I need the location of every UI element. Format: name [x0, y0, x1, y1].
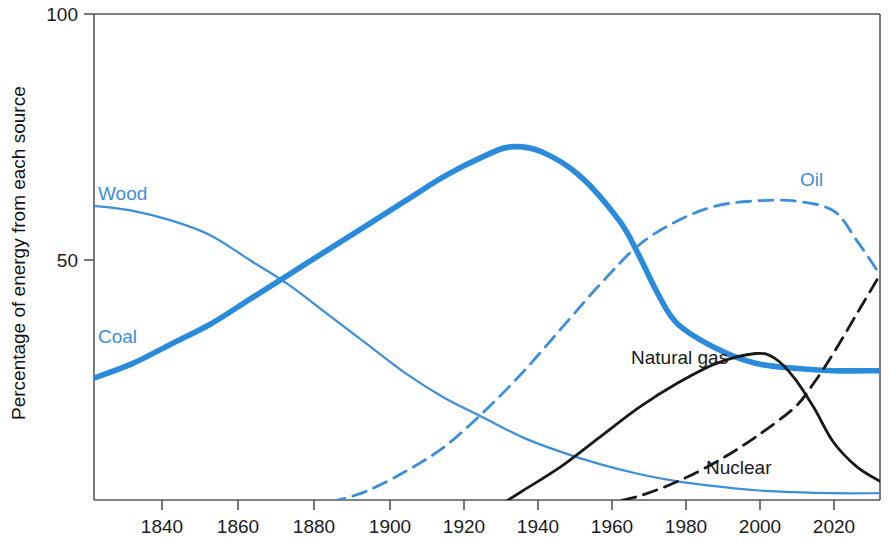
series-label-oil: Oil: [800, 169, 823, 190]
series-line-coal: [94, 147, 880, 379]
x-tick-label-1880: 1880: [293, 516, 335, 537]
series-label-natural-gas: Natural gas: [631, 347, 728, 368]
x-tick-label-1860: 1860: [217, 516, 259, 537]
series-line-wood: [94, 206, 880, 493]
series-label-coal: Coal: [98, 326, 137, 347]
x-tick-label-1840: 1840: [141, 516, 183, 537]
x-tick-label-1940: 1940: [517, 516, 559, 537]
series-label-nuclear: Nuclear: [706, 457, 772, 478]
series-line-natural-gas: [503, 353, 880, 503]
series-line-oil: [331, 200, 880, 502]
x-tick-label-1920: 1920: [443, 516, 485, 537]
y-tick-label-100: 100: [46, 4, 78, 25]
energy-sources-line-chart: 100 50 Percentage of energy from each so…: [0, 0, 888, 547]
y-axis-label: Percentage of energy from each source: [8, 86, 29, 420]
x-tick-label-1900: 1900: [369, 516, 411, 537]
y-tick-label-50: 50: [57, 250, 78, 271]
x-tick-label-2020: 2020: [813, 516, 855, 537]
x-tick-label-1960: 1960: [591, 516, 633, 537]
x-tick-label-2000: 2000: [739, 516, 781, 537]
series-label-wood: Wood: [98, 183, 147, 204]
x-tick-label-1980: 1980: [665, 516, 707, 537]
chart-figure: 100 50 Percentage of energy from each so…: [0, 0, 888, 547]
